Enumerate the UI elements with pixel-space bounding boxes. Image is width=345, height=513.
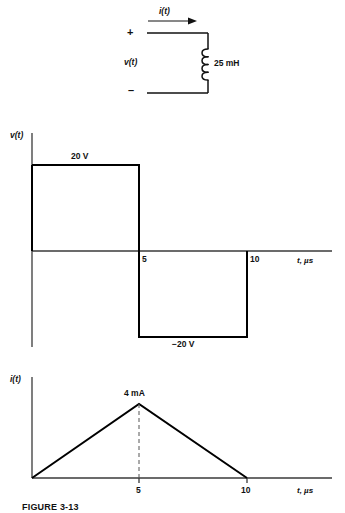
circuit-schematic (147, 18, 208, 93)
voltage-negative-level-label: −20 V (172, 340, 194, 349)
current-chart-y-axis-label: i(t) (10, 375, 21, 384)
current-peak-label: 4 mA (124, 389, 145, 398)
voltage-positive-level-label: 20 V (71, 152, 89, 161)
inductor-coil-icon (202, 49, 208, 80)
inductor-value-label: 25 mH (214, 59, 240, 68)
circuit-current-label: i(t) (159, 7, 170, 16)
voltage-chart-graphics (32, 133, 332, 347)
current-chart-graphics (32, 377, 332, 483)
voltage-chart-y-axis-label: v(t) (10, 131, 23, 140)
circuit-plus-terminal: + (127, 27, 133, 38)
current-direction-arrow-icon (148, 18, 197, 25)
voltage-chart-x-axis-label: t, µs (297, 257, 313, 265)
figure-page: i(t) v(t) + – 25 mH v(t) 20 V −20 V 5 10… (0, 0, 345, 513)
voltage-xtick-label-5: 5 (142, 255, 147, 264)
circuit-voltage-label: v(t) (124, 58, 137, 67)
figure-graphics (0, 0, 345, 513)
voltage-xtick-label-10: 10 (250, 255, 259, 264)
figure-caption: FIGURE 3-13 (22, 502, 79, 512)
circuit-minus-terminal: – (128, 85, 134, 96)
current-xtick-label-10: 10 (241, 486, 250, 495)
current-chart-x-axis-label: t, µs (297, 487, 313, 495)
current-xtick-label-5: 5 (136, 486, 141, 495)
